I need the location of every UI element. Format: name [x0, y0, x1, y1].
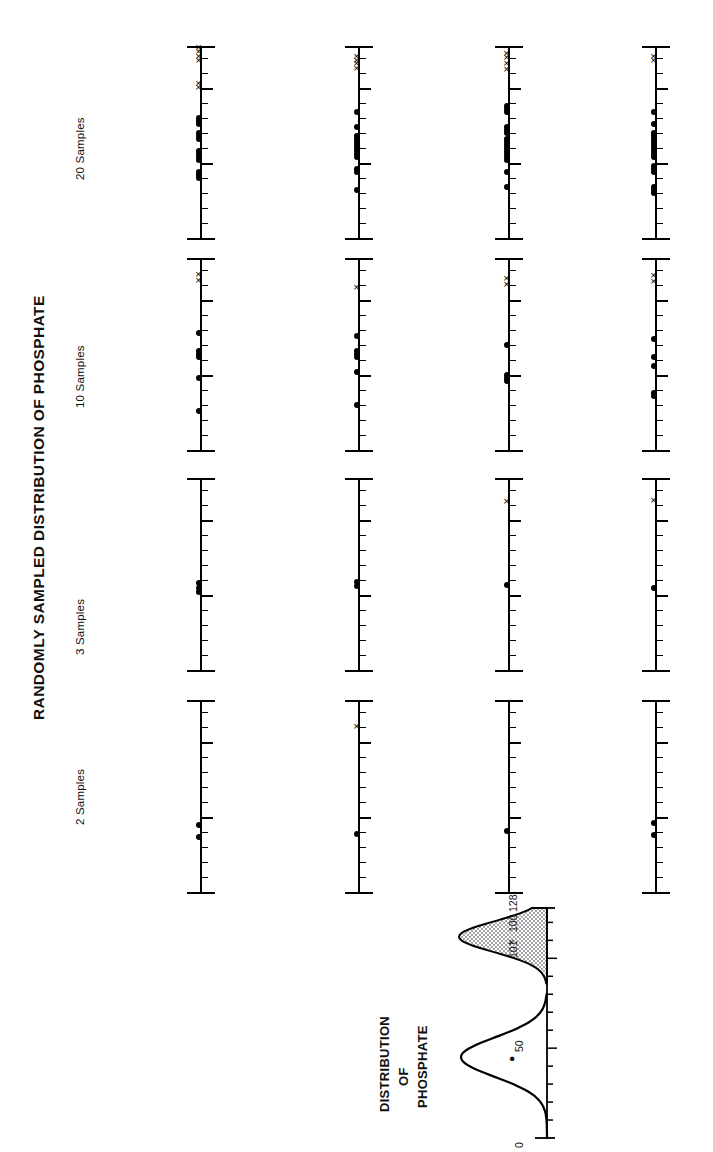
- axis-minor-tick: [358, 610, 366, 611]
- data-point-cross: [503, 498, 510, 505]
- axis-minor-tick: [358, 565, 366, 566]
- axis-endcap-top: [642, 258, 670, 260]
- axis-endcap-top: [345, 46, 373, 48]
- inset-axis-label-50: 50: [513, 1040, 525, 1052]
- axis-minor-tick: [200, 727, 208, 728]
- inset-title-line-3: PHOSPHATE: [415, 1025, 430, 1108]
- axis-endcap-top: [187, 258, 215, 260]
- axis-minor-tick: [508, 435, 516, 436]
- axis-minor-tick: [508, 118, 516, 119]
- axis-minor-tick: [358, 535, 366, 536]
- axis-minor-tick: [200, 505, 208, 506]
- axis-major-tick: [508, 300, 521, 302]
- axis-endcap-top: [187, 700, 215, 702]
- axis-minor-tick: [655, 580, 663, 581]
- axis-minor-tick: [655, 178, 663, 179]
- axis-endcap-bottom: [642, 238, 670, 240]
- data-point-cross: [353, 284, 360, 291]
- data-point-cross: [195, 80, 202, 87]
- axis-minor-tick: [200, 73, 208, 74]
- axis-minor-tick: [358, 118, 366, 119]
- axis-minor-tick: [200, 490, 208, 491]
- axis-minor-tick: [358, 345, 366, 346]
- axis-minor-tick: [508, 610, 516, 611]
- axis-endcap-top: [642, 478, 670, 480]
- axis-minor-tick: [508, 535, 516, 536]
- axis-endcap-top: [345, 258, 373, 260]
- axis-endcap-top: [642, 46, 670, 48]
- axis-minor-tick: [508, 802, 516, 803]
- data-point-cross: [650, 497, 657, 504]
- axis-minor-tick: [358, 757, 366, 758]
- axis-major-tick: [358, 595, 371, 597]
- column-label-3-samples: 3 Samples: [74, 599, 86, 655]
- axis-endcap-bottom: [495, 450, 523, 452]
- axis-endcap-bottom: [642, 892, 670, 894]
- axis-endcap-bottom: [642, 450, 670, 452]
- axis-minor-tick: [358, 390, 366, 391]
- axis-endcap-top: [642, 700, 670, 702]
- axis-minor-tick: [200, 360, 208, 361]
- axis-major-tick: [508, 595, 521, 597]
- axis-minor-tick: [200, 435, 208, 436]
- axis-major-tick: [655, 88, 668, 90]
- data-point-cross: [650, 53, 657, 60]
- axis-minor-tick: [508, 787, 516, 788]
- axis-minor-tick: [508, 490, 516, 491]
- axis-minor-tick: [655, 360, 663, 361]
- axis-minor-tick: [655, 420, 663, 421]
- axis-minor-tick: [358, 420, 366, 421]
- axis-minor-tick: [358, 490, 366, 491]
- axis-minor-tick: [200, 193, 208, 194]
- axis-minor-tick: [508, 550, 516, 551]
- axis-major-tick: [655, 163, 668, 165]
- inset-cross-marker: ×: [505, 939, 517, 945]
- inset-title-line-1: DISTRIBUTION: [377, 1016, 392, 1112]
- axis-minor-tick: [358, 270, 366, 271]
- axis-minor-tick: [655, 208, 663, 209]
- inset-axis-label-100: 100: [507, 914, 519, 932]
- axis-minor-tick: [655, 73, 663, 74]
- axis-minor-tick: [508, 420, 516, 421]
- axis-minor-tick: [508, 360, 516, 361]
- axis-minor-tick: [358, 862, 366, 863]
- axis-minor-tick: [358, 435, 366, 436]
- axis-major-tick: [508, 817, 521, 819]
- axis-endcap-top: [345, 478, 373, 480]
- axis-minor-tick: [358, 178, 366, 179]
- axis-minor-tick: [655, 862, 663, 863]
- axis-minor-tick: [508, 712, 516, 713]
- axis-minor-tick: [200, 862, 208, 863]
- axis-minor-tick: [358, 802, 366, 803]
- axis-minor-tick: [200, 223, 208, 224]
- axis-major-tick: [200, 300, 213, 302]
- axis-major-tick: [358, 742, 371, 744]
- axis-minor-tick: [358, 640, 366, 641]
- axis-minor-tick: [358, 847, 366, 848]
- axis-minor-tick: [508, 757, 516, 758]
- axis-minor-tick: [655, 565, 663, 566]
- axis-minor-tick: [508, 625, 516, 626]
- axis-minor-tick: [508, 565, 516, 566]
- axis-minor-tick: [655, 772, 663, 773]
- data-point-cross: [503, 50, 510, 57]
- axis-endcap-top: [187, 478, 215, 480]
- axis-minor-tick: [358, 103, 366, 104]
- axis-minor-tick: [200, 757, 208, 758]
- axis-major-tick: [358, 300, 371, 302]
- axis-endcap-top: [495, 258, 523, 260]
- axis-minor-tick: [655, 610, 663, 611]
- axis-minor-tick: [655, 877, 663, 878]
- axis-minor-tick: [358, 223, 366, 224]
- axis-minor-tick: [655, 727, 663, 728]
- axis-minor-tick: [200, 390, 208, 391]
- axis-minor-tick: [200, 208, 208, 209]
- axis-minor-tick: [508, 193, 516, 194]
- axis-minor-tick: [508, 640, 516, 641]
- axis-minor-tick: [358, 505, 366, 506]
- axis-minor-tick: [200, 345, 208, 346]
- axis-minor-tick: [508, 772, 516, 773]
- axis-major-tick: [200, 742, 213, 744]
- axis-minor-tick: [655, 535, 663, 536]
- axis-major-tick: [508, 88, 521, 90]
